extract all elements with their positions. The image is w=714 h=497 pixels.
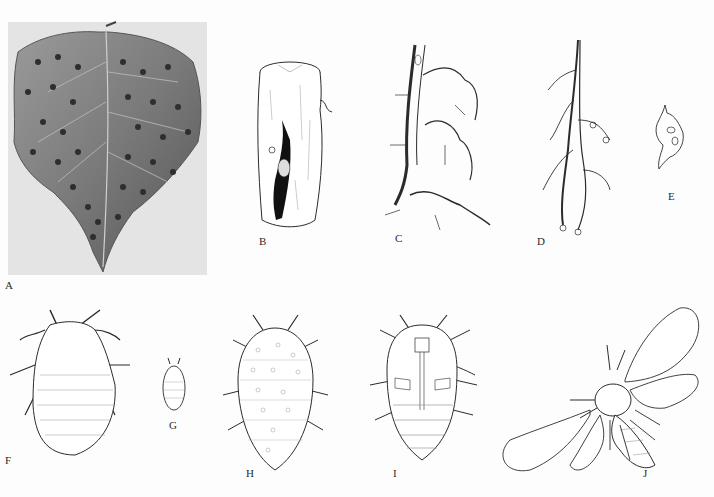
insect-small-icon: [160, 358, 188, 413]
panel-label-i: I: [393, 468, 397, 479]
panel-c-drawing: [385, 45, 495, 230]
leaf-photo-icon: [8, 22, 207, 275]
panel-label-a: A: [5, 280, 13, 291]
panel-g-drawing: [160, 358, 188, 413]
panel-f-drawing: [5, 305, 140, 465]
panel-label-e: E: [668, 191, 675, 202]
panel-label-d: D: [537, 236, 545, 247]
insect-spotted-icon: [218, 310, 333, 475]
panel-b-drawing: [260, 60, 350, 230]
panel-label-f: F: [5, 455, 11, 466]
panel-i-drawing: [365, 310, 480, 470]
root-galls-icon: [385, 45, 495, 230]
panel-d-drawing: [538, 40, 623, 235]
insect-dorsal-large-icon: [5, 305, 140, 465]
stem-section-icon: [260, 60, 350, 230]
panel-label-h: H: [246, 468, 254, 479]
branching-root-icon: [538, 40, 623, 235]
panel-h-drawing: [218, 310, 333, 475]
single-gall-icon: [655, 105, 685, 170]
panel-label-g: G: [169, 420, 177, 431]
figure-plate: A B C: [0, 0, 714, 497]
panel-e-drawing: [655, 105, 685, 170]
panel-a-photo: [8, 22, 207, 275]
panel-j-drawing: [495, 300, 710, 480]
panel-label-j: J: [643, 468, 647, 479]
panel-label-c: C: [395, 233, 402, 244]
winged-insect-icon: [495, 300, 710, 480]
panel-label-b: B: [259, 236, 266, 247]
insect-ventral-icon: [365, 310, 480, 470]
